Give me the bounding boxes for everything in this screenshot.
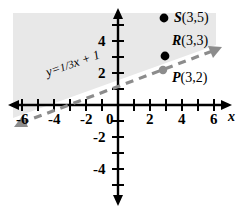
point-label-S-name: S: [174, 10, 182, 25]
point-label-R-name: R: [172, 33, 181, 48]
x-tick-label-2: 2: [146, 112, 154, 127]
origin-label: 0: [106, 112, 114, 127]
point-label-P-coords: (3,2): [181, 70, 208, 85]
point-label-P: P(3,2): [172, 71, 207, 85]
x-axis-label: x: [228, 110, 235, 124]
y-tick-label--2: -2: [93, 130, 106, 145]
y-tick-label-4: 4: [98, 34, 106, 49]
x-tick-label--6: -6: [16, 112, 29, 127]
point-label-R: R(3,3): [172, 34, 208, 48]
x-tick-label--2: -2: [80, 112, 93, 127]
point-label-R-coords: (3,3): [181, 33, 208, 48]
point-marker-R: [161, 52, 170, 61]
y-tick-label-2: 2: [98, 66, 106, 81]
point-label-P-name: P: [172, 70, 181, 85]
x-tick-label--4: -4: [48, 112, 61, 127]
point-label-S-coords: (3,5): [182, 10, 209, 25]
x-tick-label-6: 6: [210, 112, 218, 127]
y-tick-label--4: -4: [93, 162, 106, 177]
point-marker-S: [160, 14, 169, 23]
coordinate-plane-graph: -6 -4 -2 0 2 4 6 4 2 -2 -4 x S(3,5) R(3,…: [0, 0, 241, 213]
point-label-S: S(3,5): [174, 11, 209, 25]
point-marker-P: [159, 66, 167, 74]
x-tick-label-4: 4: [178, 112, 186, 127]
graph-canvas: [0, 0, 241, 213]
